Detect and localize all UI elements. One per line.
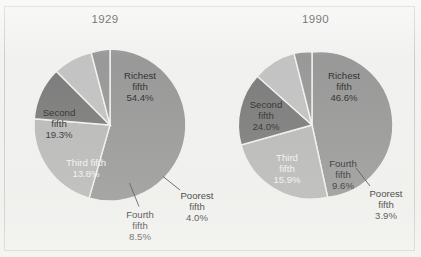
- slice-label-line2: fifth: [315, 169, 371, 180]
- slice-label-line1: Poorest: [358, 188, 414, 199]
- slice-label-pct: 54.4%: [106, 92, 174, 103]
- slice-label-pct: 3.9%: [358, 210, 414, 221]
- slice-label-second-1929: Second fifth 19.3%: [26, 107, 92, 141]
- leader-line-poorest-1929: [163, 177, 180, 191]
- slice-label-line1: Fourth: [315, 158, 371, 169]
- slice-label-line2: fifth: [26, 118, 92, 129]
- slice-label-pct: 8.5%: [112, 231, 168, 242]
- slice-label-third-1929: Third fifth 13.8%: [51, 157, 121, 179]
- slice-label-pct: 15.9%: [260, 174, 314, 185]
- chart-panel-1929: 1929 Richest fifth 54.4%: [0, 0, 210, 257]
- slice-label-line1: Second: [26, 107, 92, 118]
- slice-label-line1: Third: [260, 152, 314, 163]
- slice-label-line1: Second: [234, 99, 298, 110]
- slice-label-line2: fifth: [106, 81, 174, 92]
- pie-chart-figure: 1929 Richest fifth 54.4%: [0, 0, 421, 257]
- slice-label-line2: fifth: [234, 110, 298, 121]
- slice-label-pct: 13.8%: [51, 168, 121, 179]
- slice-label-line1: Richest: [310, 70, 378, 81]
- slice-label-second-1990: Second fifth 24.0%: [234, 99, 298, 133]
- slice-label-line2: fifth: [310, 81, 378, 92]
- slice-label-pct: 19.3%: [26, 129, 92, 140]
- slice-label-line1: Fourth: [112, 209, 168, 220]
- slice-label-line2: fifth: [260, 163, 314, 174]
- slice-label-line2: fifth: [112, 220, 168, 231]
- slice-label-poorest-1990: Poorest fifth 3.9%: [358, 188, 414, 222]
- slice-label-richest-1929: Richest fifth 54.4%: [106, 70, 174, 104]
- chart-panel-1990: 1990 Richest fifth 46.6% Secon: [210, 0, 421, 257]
- slice-label-line2: fifth: [358, 199, 414, 210]
- slice-label-fourth-1929: Fourth fifth 8.5%: [112, 209, 168, 243]
- slice-label-pct: 24.0%: [234, 121, 298, 132]
- slice-label-line1: Third fifth: [51, 157, 121, 168]
- slice-label-third-1990: Third fifth 15.9%: [260, 152, 314, 186]
- slice-label-richest-1990: Richest fifth 46.6%: [310, 70, 378, 104]
- slice-label-line1: Richest: [106, 70, 174, 81]
- slice-label-pct: 46.6%: [310, 92, 378, 103]
- slice-label-fourth-1990: Fourth fifth 9.6%: [315, 158, 371, 192]
